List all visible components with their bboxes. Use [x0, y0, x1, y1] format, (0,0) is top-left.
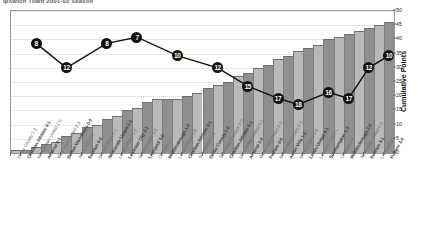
- x-axis-tick-mark: [292, 152, 293, 156]
- x-axis-tick-mark: [171, 152, 172, 156]
- x-axis-tick-mark: [101, 152, 102, 156]
- x-axis-tick-mark: [10, 152, 11, 156]
- x-axis-tick-mark: [50, 152, 51, 156]
- x-axis-tick-mark: [121, 152, 122, 156]
- x-axis-tick-mark: [252, 152, 253, 156]
- x-axis-tick-mark: [242, 152, 243, 156]
- x-axis-tick-mark: [232, 152, 233, 156]
- x-axis-tick-mark: [202, 152, 203, 156]
- x-axis-tick-mark: [212, 152, 213, 156]
- y-axis-right-title-label: Cumulative Points: [401, 50, 408, 111]
- x-axis-tick-mark: [373, 152, 374, 156]
- x-axis-tick-mark: [181, 152, 182, 156]
- x-axis-tick-mark: [141, 152, 142, 156]
- x-axis-tick-mark: [262, 152, 263, 156]
- x-axis-tick-mark: [40, 152, 41, 156]
- x-axis-tick-mark: [191, 152, 192, 156]
- x-axis-tick-mark: [272, 152, 273, 156]
- chart-title: Ipswich Town 2001-02 season: [3, 0, 93, 6]
- x-axis-tick-mark: [282, 152, 283, 156]
- x-axis-tick-mark: [322, 152, 323, 156]
- x-axis-tick-mark: [383, 152, 384, 156]
- x-axis-tick-mark: [312, 152, 313, 156]
- y-axis-right-title: Cumulative Points: [398, 10, 410, 152]
- x-axis-tick-mark: [60, 152, 61, 156]
- x-axis-tick-mark: [222, 152, 223, 156]
- x-axis-tick-mark: [30, 152, 31, 156]
- x-axis-tick-mark: [363, 152, 364, 156]
- x-axis-tick-mark: [131, 152, 132, 156]
- x-axis-tick-mark: [151, 152, 152, 156]
- x-axis-tick-mark: [161, 152, 162, 156]
- x-axis-tick-mark: [302, 152, 303, 156]
- x-axis: Derby County 1-2Charlton Athletic 0-1Man…: [10, 152, 393, 232]
- x-axis-tick-mark: [353, 152, 354, 156]
- x-axis-tick-mark: [343, 152, 344, 156]
- x-axis-tick-mark: [70, 152, 71, 156]
- x-axis-tick-mark: [333, 152, 334, 156]
- x-axis-tick-mark: [111, 152, 112, 156]
- x-axis-tick-mark: [20, 152, 21, 156]
- x-axis-tick-mark: [81, 152, 82, 156]
- x-axis-tick-mark: [91, 152, 92, 156]
- chart-root: Ipswich Town 2001-02 season 812871012151…: [0, 0, 435, 232]
